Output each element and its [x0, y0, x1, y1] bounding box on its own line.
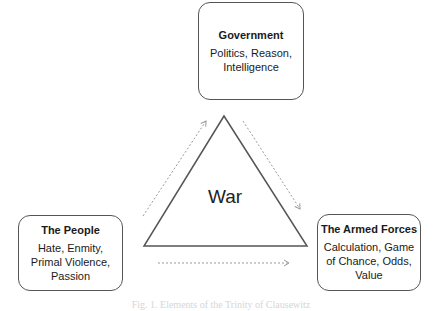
- node-government: Government Politics, Reason, Intelligenc…: [198, 2, 304, 100]
- node-government-description: Politics, Reason, Intelligence: [205, 46, 297, 74]
- node-people-description: Hate, Enmity, Primal Violence, Passion: [25, 241, 117, 283]
- figure-caption: Fig. 1. Elements of the Trinity of Claus…: [0, 299, 442, 310]
- node-people: The People Hate, Enmity, Primal Violence…: [18, 215, 123, 291]
- center-label-war: War: [190, 186, 260, 208]
- node-armed-forces: The Armed Forces Calculation, Game of Ch…: [317, 214, 421, 291]
- node-people-title: The People: [41, 224, 100, 236]
- node-armed-forces-description: Calculation, Game of Chance, Odds, Value: [321, 240, 417, 282]
- node-armed-forces-title: The Armed Forces: [321, 223, 417, 235]
- node-government-title: Government: [219, 29, 284, 41]
- war-triangle: [144, 116, 307, 246]
